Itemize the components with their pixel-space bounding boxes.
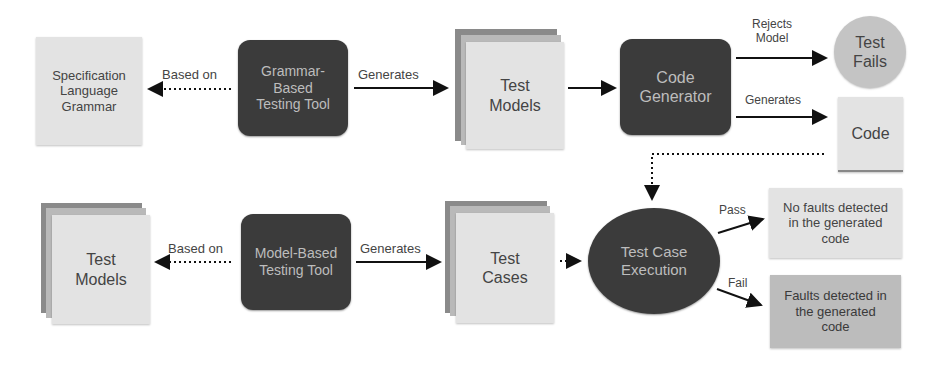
code-label: Code bbox=[851, 124, 889, 143]
model-based-testing-tool-node: Model-Based Testing Tool bbox=[241, 214, 351, 310]
test-cases-label: Test Cases bbox=[482, 249, 527, 287]
edge-label-rejects-model: Rejects Model bbox=[752, 18, 792, 46]
edge-label-fail: Fail bbox=[728, 277, 747, 291]
code-generator-node: Code Generator bbox=[620, 39, 731, 135]
edge-label-generates-top: Generates bbox=[358, 68, 419, 83]
test-models-bottom-node: Test Models bbox=[52, 215, 150, 324]
test-models-top-label: Test Models bbox=[489, 76, 541, 114]
code-node: Code bbox=[838, 97, 903, 172]
test-cases-node: Test Cases bbox=[456, 213, 554, 323]
edge-label-pass: Pass bbox=[719, 204, 746, 218]
edge-label-based-on-bottom: Based on bbox=[168, 242, 223, 257]
spec-language-grammar-label: Specification Language Grammar bbox=[52, 68, 126, 115]
faults-detected-label: Faults detected in the generated code bbox=[784, 288, 887, 335]
faults-detected-node: Faults detected in the generated code bbox=[770, 275, 901, 348]
edge-label-based-on-top: Based on bbox=[162, 68, 217, 83]
test-fails-label: Test Fails bbox=[853, 33, 887, 71]
no-faults-node: No faults detected in the generated code bbox=[769, 188, 902, 258]
grammar-based-testing-tool-node: Grammar- Based Testing Tool bbox=[238, 40, 348, 136]
code-generator-label: Code Generator bbox=[639, 68, 711, 106]
test-fails-node: Test Fails bbox=[834, 16, 906, 88]
grammar-based-testing-tool-label: Grammar- Based Testing Tool bbox=[256, 63, 330, 113]
test-models-top-node: Test Models bbox=[466, 42, 564, 149]
edge-label-generates-code: Generates bbox=[745, 94, 801, 108]
test-case-execution-node: Test Case Execution bbox=[588, 208, 720, 314]
test-case-execution-label: Test Case Execution bbox=[621, 243, 688, 279]
test-models-bottom-label: Test Models bbox=[75, 250, 127, 288]
model-based-testing-tool-label: Model-Based Testing Tool bbox=[255, 245, 338, 279]
spec-language-grammar-node: Specification Language Grammar bbox=[36, 37, 142, 145]
edge-label-generates-bottom: Generates bbox=[360, 242, 421, 257]
no-faults-label: No faults detected in the generated code bbox=[783, 200, 888, 247]
